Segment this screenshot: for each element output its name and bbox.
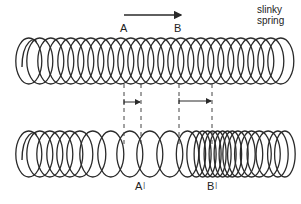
bottom-spring-compressed <box>16 131 295 177</box>
point-a-prime-label: A| <box>135 181 145 192</box>
displacement-markers <box>124 84 212 148</box>
spring-end-hook <box>22 40 36 67</box>
spring-coil <box>176 131 198 177</box>
point-b-label: B <box>174 23 181 34</box>
b-prime-letter: B <box>207 180 214 192</box>
spring-coil <box>117 131 143 177</box>
top-spring-uniform <box>16 38 294 84</box>
point-b-prime-label: B| <box>207 181 217 192</box>
point-a-label: A <box>120 23 127 34</box>
slinky-spring-label: slinky spring <box>257 4 284 26</box>
spring-coil <box>27 38 53 84</box>
a-prime-letter: A <box>135 180 142 192</box>
slinky-wave-diagram: A B slinky spring A| B| <box>0 0 301 204</box>
spring-end-hook <box>22 133 36 160</box>
slinky-label-line2: spring <box>257 15 284 26</box>
spring-coil <box>16 131 42 177</box>
diagram-canvas <box>0 0 301 204</box>
a-prime-mark: | <box>143 181 145 188</box>
spring-coil <box>137 131 163 177</box>
b-prime-mark: | <box>215 181 217 188</box>
slinky-label-line1: slinky <box>257 4 284 15</box>
